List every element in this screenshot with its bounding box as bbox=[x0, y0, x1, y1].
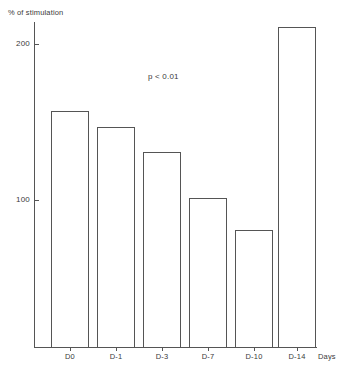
bar-d-1 bbox=[97, 127, 135, 347]
bar-d-7 bbox=[189, 198, 227, 347]
x-axis-title: Days bbox=[318, 352, 336, 361]
x-axis-label-d-14: D-14 bbox=[277, 352, 317, 361]
y-axis-title: % of stimulation bbox=[8, 8, 63, 17]
bar-d0 bbox=[51, 111, 89, 347]
x-axis-label-d-1: D-1 bbox=[96, 352, 136, 361]
x-axis-line bbox=[34, 347, 317, 348]
y-axis-tick-100 bbox=[34, 200, 39, 201]
x-axis-tick-4 bbox=[254, 347, 255, 351]
y-axis-tick-label-100: 100 bbox=[2, 195, 30, 204]
x-axis-tick-3 bbox=[208, 347, 209, 351]
y-axis-tick-label-200: 200 bbox=[2, 39, 30, 48]
x-axis-tick-1 bbox=[116, 347, 117, 351]
x-axis-label-d-7: D-7 bbox=[188, 352, 228, 361]
bar-d-14 bbox=[278, 27, 316, 347]
p-value-annotation: p < 0.01 bbox=[148, 72, 179, 81]
x-axis-tick-0 bbox=[70, 347, 71, 351]
x-axis-label-d-10: D-10 bbox=[234, 352, 274, 361]
x-axis-tick-5 bbox=[297, 347, 298, 351]
bar-d-3 bbox=[143, 152, 181, 347]
y-axis-line bbox=[34, 22, 35, 348]
x-axis-label-d-3: D-3 bbox=[142, 352, 182, 361]
x-axis-label-d0: D0 bbox=[50, 352, 90, 361]
y-axis-tick-200 bbox=[34, 44, 39, 45]
x-axis-tick-2 bbox=[162, 347, 163, 351]
bar-d-10 bbox=[235, 230, 273, 347]
bar-chart: % of stimulation 200 100 p < 0.01 D0D-1D… bbox=[0, 0, 350, 378]
